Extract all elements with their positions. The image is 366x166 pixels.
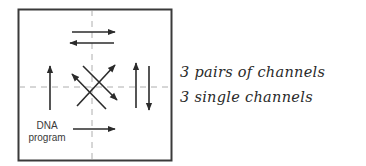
dna-label-line1: DNA bbox=[22, 120, 72, 132]
dna-label-line2: program bbox=[22, 132, 72, 144]
legend-single-channels: 3 single channels bbox=[180, 89, 313, 105]
dna-program-label: DNA program bbox=[22, 120, 72, 144]
legend-pairs-of-channels: 3 pairs of channels bbox=[180, 64, 325, 80]
channel-diagram: DNA program 3 pairs of channels 3 single… bbox=[0, 0, 366, 166]
